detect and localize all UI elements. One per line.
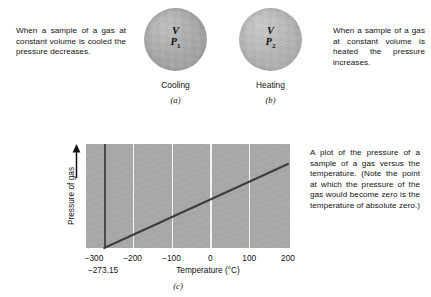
panel-a-caption: Cooling — [144, 80, 207, 90]
pressure-subscript: 2 — [272, 42, 276, 50]
pressure-symbol: P2 — [239, 37, 302, 50]
panel-a-description-text: When a sample of a gas at constant volum… — [16, 26, 126, 58]
x-tick-minus200: −200 — [123, 253, 142, 263]
panel-a-description: When a sample of a gas at constant volum… — [16, 26, 126, 58]
panel-b-description-text: When a sample of a gas at constant volum… — [333, 26, 425, 68]
x-tick-minus300: −300 — [85, 253, 104, 263]
pressure-symbol: P1 — [144, 37, 207, 50]
flask-cooling-labels: V P1 — [144, 26, 207, 50]
gas-flask-heating: V P2 — [239, 8, 302, 71]
y-axis-arrow-icon — [72, 144, 81, 178]
chart-plot-area — [86, 144, 290, 248]
volume-symbol: V — [144, 26, 207, 37]
chart-x-axis-label: Temperature (°C) — [176, 265, 240, 275]
absolute-zero-label: −273.15 — [88, 265, 118, 275]
panel-b-caption: Heating — [239, 80, 302, 90]
gas-flask-cooling: V P1 — [144, 8, 207, 71]
panel-b-description: When a sample of a gas at constant volum… — [333, 26, 425, 68]
x-tick-zero: 0 — [208, 253, 213, 263]
pressure-temperature-chart-panel: Pressure of gas −300 −200 −100 0 100 200… — [0, 136, 431, 297]
x-tick-minus100: −100 — [162, 253, 181, 263]
x-tick-100: 100 — [242, 253, 256, 263]
flask-heating-labels: V P2 — [239, 26, 302, 50]
panel-b-flask-group: V P2 Heating (b) — [239, 8, 302, 105]
panel-c-description-text: A plot of the pressure of a sample of a … — [310, 148, 420, 212]
panel-c-description: A plot of the pressure of a sample of a … — [310, 148, 420, 212]
pressure-trend-line — [86, 144, 290, 248]
volume-symbol: V — [239, 26, 302, 37]
x-tick-200: 200 — [281, 253, 295, 263]
panel-c-letter: (c) — [158, 281, 198, 291]
pressure-subscript: 1 — [177, 42, 181, 50]
panel-a-flask-group: V P1 Cooling (a) — [144, 8, 207, 105]
panel-b-letter: (b) — [239, 95, 302, 105]
panel-a-letter: (a) — [144, 95, 207, 105]
